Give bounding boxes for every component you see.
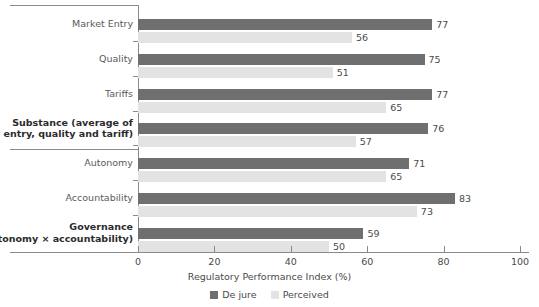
bar-value-label-perceived: 51: [337, 67, 349, 78]
category-label-line: market entry, quality and tariff): [0, 128, 133, 140]
legend-item-de-jure[interactable]: De jure: [210, 289, 256, 300]
x-axis-tick: [367, 246, 368, 253]
bar-de-jure[interactable]: [138, 19, 432, 30]
category-label: Market Entry: [72, 18, 133, 30]
bar-de-jure[interactable]: [138, 89, 432, 100]
bar-row: 7765: [138, 82, 539, 116]
chart-group-separator-rule: [10, 149, 138, 150]
x-axis-tick: [214, 246, 215, 253]
bar-perceived[interactable]: [138, 206, 417, 217]
x-axis-title: Regulatory Performance Index (%): [0, 271, 539, 282]
x-axis-tick-label: 60: [361, 256, 373, 267]
category-label: Substance (average ofmarket entry, quali…: [0, 117, 133, 140]
legend-item-perceived[interactable]: Perceived: [271, 289, 329, 300]
bar-value-label-perceived: 65: [390, 102, 402, 113]
category-label: Autonomy: [84, 157, 133, 169]
x-axis-tick: [138, 246, 139, 253]
bar-value-label-perceived: 57: [360, 136, 372, 147]
category-label-line: Tariffs: [105, 88, 133, 100]
category-label: Accountability: [66, 192, 133, 204]
x-axis-tick-label: 100: [511, 256, 529, 267]
bar-perceived[interactable]: [138, 171, 386, 182]
category-label: Quality: [99, 53, 133, 65]
x-axis-tick: [291, 246, 292, 253]
category-label-line: Quality: [99, 53, 133, 65]
bar-de-jure[interactable]: [138, 54, 425, 65]
chart-legend: De jure Perceived: [0, 289, 539, 300]
bar-perceived[interactable]: [138, 67, 333, 78]
legend-label-de-jure: De jure: [222, 289, 256, 300]
bar-de-jure[interactable]: [138, 123, 428, 134]
plot-area: 7756755177657657716583735950: [138, 5, 539, 252]
bar-row: 7756: [138, 12, 539, 46]
bar-de-jure[interactable]: [138, 193, 455, 204]
bar-value-label-de-jure: 77: [436, 19, 448, 30]
legend-swatch-perceived-icon: [271, 291, 279, 299]
regulatory-performance-bar-chart: Market EntryQualityTariffsSubstance (ave…: [0, 0, 539, 307]
bar-perceived[interactable]: [138, 32, 352, 43]
category-label-line: Autonomy: [84, 157, 133, 169]
bar-perceived[interactable]: [138, 136, 356, 147]
x-axis-tick-label: 20: [208, 256, 220, 267]
bar-value-label-de-jure: 76: [432, 123, 444, 134]
x-axis-tick-label: 0: [135, 256, 141, 267]
bar-row: 5950: [138, 221, 539, 255]
category-label: Tariffs: [105, 88, 133, 100]
legend-swatch-de-jure-icon: [210, 291, 218, 299]
category-label-line: (autonomy × accountability): [0, 233, 133, 245]
category-label: Governance(autonomy × accountability): [0, 221, 133, 244]
bar-value-label-de-jure: 75: [429, 54, 441, 65]
bar-value-label-perceived: 65: [390, 171, 402, 182]
bar-row: 7551: [138, 47, 539, 81]
x-axis-tick: [520, 246, 521, 253]
bar-perceived[interactable]: [138, 241, 329, 252]
bar-value-label-de-jure: 59: [367, 228, 379, 239]
bar-de-jure[interactable]: [138, 228, 363, 239]
bar-row: 7657: [138, 116, 539, 150]
chart-top-rule: [10, 5, 138, 6]
bar-value-label-de-jure: 83: [459, 193, 471, 204]
bar-de-jure[interactable]: [138, 158, 409, 169]
bar-value-label-de-jure: 77: [436, 89, 448, 100]
category-label-line: Accountability: [66, 192, 133, 204]
category-label-line: Governance: [0, 221, 133, 233]
category-label-line: Substance (average of: [0, 117, 133, 129]
x-axis-tick-label: 80: [438, 256, 450, 267]
bar-perceived[interactable]: [138, 102, 386, 113]
bar-value-label-perceived: 50: [333, 241, 345, 252]
bar-row: 8373: [138, 186, 539, 220]
legend-label-perceived: Perceived: [283, 289, 329, 300]
bar-value-label-perceived: 73: [421, 206, 433, 217]
x-axis-tick: [444, 246, 445, 253]
bar-value-label-de-jure: 71: [413, 158, 425, 169]
category-label-line: Market Entry: [72, 18, 133, 30]
bar-value-label-perceived: 56: [356, 32, 368, 43]
bar-row: 7165: [138, 151, 539, 185]
x-axis-tick-label: 40: [285, 256, 297, 267]
